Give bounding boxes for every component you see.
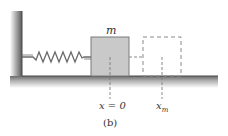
- spring: [22, 52, 91, 62]
- equilibrium-label-text: x = 0: [99, 100, 126, 111]
- displaced-block-outline: [143, 37, 181, 76]
- figure-caption: (b): [103, 117, 117, 128]
- mass-block: [91, 37, 129, 76]
- wall: [10, 11, 22, 77]
- max-label-sub: m: [162, 106, 169, 114]
- spring-mass-diagram: [0, 0, 228, 136]
- equilibrium-label: x = 0: [99, 100, 126, 111]
- floor: [10, 76, 218, 88]
- max-displacement-label: xm: [156, 100, 168, 114]
- mass-label: m: [106, 24, 116, 37]
